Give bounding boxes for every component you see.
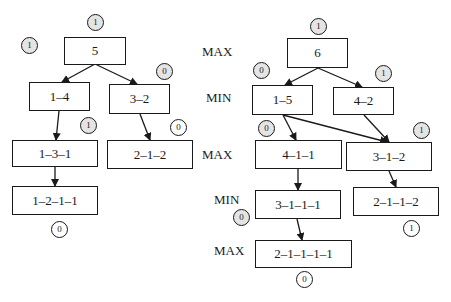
level-label: MIN (214, 192, 239, 208)
level-label: MAX (202, 44, 232, 60)
level-label: MIN (206, 90, 231, 106)
node-badge: 0 (156, 63, 173, 80)
node-badge: 0 (51, 221, 68, 238)
edge-R4-R6 (389, 171, 396, 187)
level-label: MAX (214, 243, 244, 259)
node-badge: 1 (413, 122, 430, 139)
node-badge: 1 (87, 14, 104, 31)
edge-L1-L3 (56, 111, 59, 140)
tree-node: 2–1–1–2 (353, 187, 439, 216)
edge-R2-R4 (364, 115, 389, 142)
node-badge: 1 (310, 18, 327, 35)
tree-node: 1–5 (252, 85, 313, 115)
tree-node: 1–4 (29, 82, 90, 111)
tree-node: 4–1–1 (255, 140, 342, 169)
node-badge: 0 (233, 209, 250, 226)
edge-R0-R1 (285, 68, 318, 85)
tree-node: 4–2 (333, 87, 394, 115)
edge-L0-L2 (95, 64, 137, 84)
edge-R5-R7 (297, 219, 302, 240)
node-badge: 0 (170, 119, 187, 136)
tree-node: 6 (287, 38, 348, 68)
tree-node: 3–2 (109, 84, 170, 114)
tree-node: 3–1–2 (346, 142, 432, 171)
edge-L2-L4 (140, 114, 150, 140)
edge-R0-R2 (318, 68, 362, 87)
edge-R1-R4 (283, 115, 387, 142)
tree-node: 1–3–1 (12, 140, 98, 167)
node-badge: 0 (253, 62, 270, 79)
node-badge: 1 (375, 65, 392, 82)
node-badge: 1 (403, 220, 420, 237)
tree-node: 2–1–2 (107, 140, 193, 169)
tree-node: 2–1–1–1–1 (255, 240, 352, 268)
tree-node: 5 (64, 37, 126, 65)
node-badge: 1 (80, 117, 97, 134)
level-label: MAX (202, 147, 232, 163)
edge-R1-R3 (283, 115, 296, 140)
edge-L0-L1 (62, 64, 95, 82)
node-badge: 0 (296, 271, 313, 288)
node-badge: 0 (258, 120, 275, 137)
tree-node: 1–2–1–1 (12, 186, 98, 215)
tree-node: 3–1–1–1 (255, 190, 341, 219)
node-badge: 1 (21, 37, 38, 54)
